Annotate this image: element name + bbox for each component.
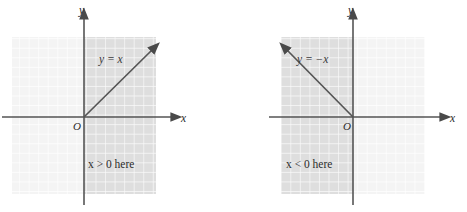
- equation-label: y = −x: [296, 53, 329, 66]
- absolute-value-graphs-figure: x y O y = x x > 0 here: [0, 0, 467, 212]
- region-note: x < 0 here: [286, 158, 332, 170]
- region-note: x > 0 here: [88, 158, 134, 170]
- y-axis-label: y: [78, 4, 85, 17]
- y-axis-label: y: [347, 4, 354, 17]
- origin-label: O: [73, 120, 81, 132]
- panel-y-equals-negative-x: x y O y = −x x < 0 here: [233, 0, 467, 212]
- origin-label: O: [343, 120, 351, 132]
- x-axis-label: x: [449, 112, 456, 124]
- panel-y-equals-x: x y O y = x x > 0 here: [0, 0, 234, 212]
- grid-light-region: [12, 37, 84, 194]
- equation-label: y = x: [98, 53, 124, 66]
- x-axis-label: x: [180, 112, 187, 124]
- grid-light-region: [353, 37, 425, 194]
